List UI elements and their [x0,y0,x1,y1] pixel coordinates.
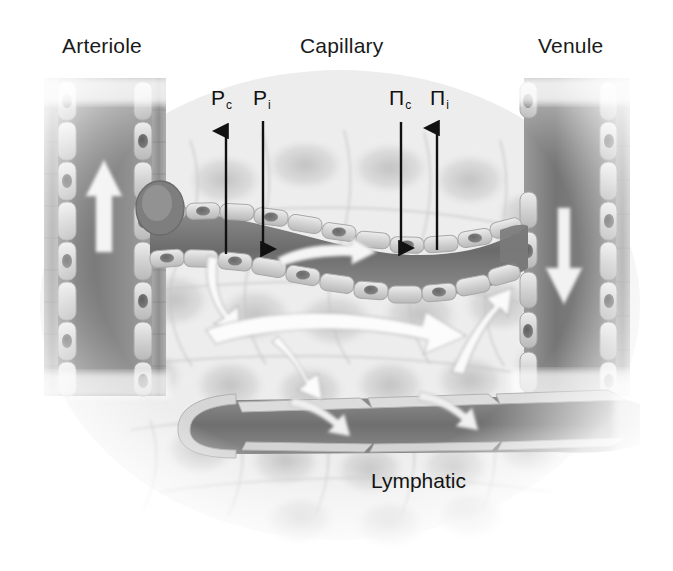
label-pii: Πi [430,86,448,110]
label-pc-symbol: P [211,86,225,109]
edge-vignette [0,0,673,571]
label-pic-symbol: Π [389,86,404,109]
label-venule: Venule [538,34,603,58]
label-lymphatic: Lymphatic [371,469,466,493]
label-pi-subscript: i [268,98,271,112]
capillary-exchange-figure: Arteriole Capillary Venule Pc Pi Πc Πi L… [0,0,673,571]
label-pc-subscript: c [226,98,232,112]
label-capillary: Capillary [300,34,384,58]
label-pi-symbol: P [253,86,267,109]
illustration-canvas [0,0,673,571]
label-pii-symbol: Π [430,86,445,109]
label-pii-subscript: i [446,98,449,112]
label-pc: Pc [211,86,231,110]
label-arteriole: Arteriole [62,34,142,58]
label-pi: Pi [253,86,270,110]
label-pic: Πc [389,86,410,110]
label-pic-subscript: c [405,98,411,112]
